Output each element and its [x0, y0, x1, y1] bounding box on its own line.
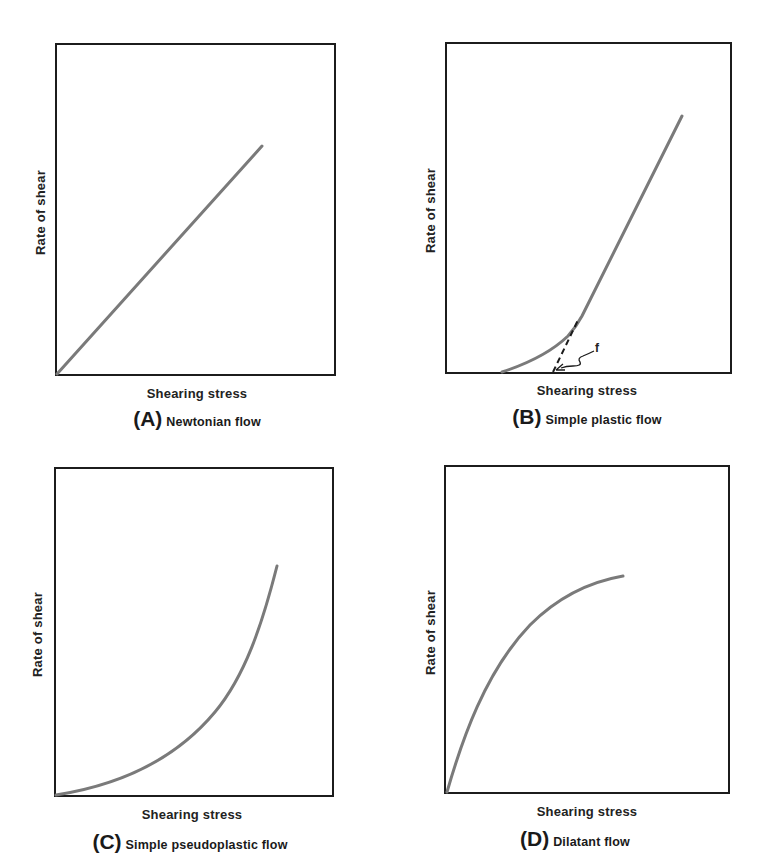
panel-caption-d: (D)Dilatant flow [520, 827, 630, 851]
y-axis-label-d: Rate of shear [423, 590, 438, 675]
x-axis-label-d: Shearing stress [537, 804, 638, 819]
plot-area-d [0, 0, 767, 853]
panel-title-d: Dilatant flow [553, 835, 630, 849]
panel-letter-d: (D) [520, 827, 549, 850]
dilatant-curve [447, 576, 623, 792]
